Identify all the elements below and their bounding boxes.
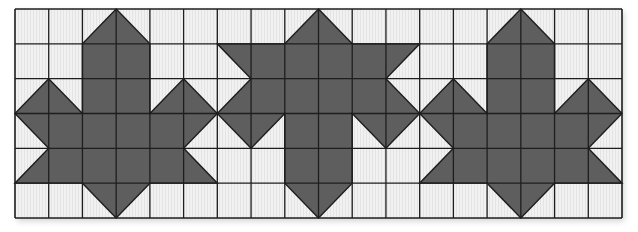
- tessellation-diagram: [0, 0, 638, 232]
